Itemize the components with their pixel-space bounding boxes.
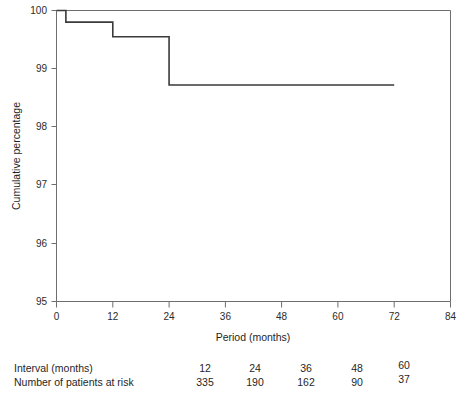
risk-table-at-risk-12: 335 [196, 376, 214, 388]
y-tick-label-98: 98 [36, 121, 48, 132]
y-tick-label-96: 96 [36, 238, 48, 249]
x-tick-label-60: 60 [332, 311, 344, 322]
x-tick-label-48: 48 [276, 311, 288, 322]
risk-table-at-risk-24: 190 [246, 376, 264, 388]
x-tick-label-24: 24 [164, 311, 176, 322]
x-tick-label-36: 36 [220, 311, 232, 322]
y-axis-title: Cumulative percentage [10, 102, 22, 210]
survival-chart-svg: 100 99 98 97 96 95 0 12 24 36 48 60 72 [0, 0, 470, 401]
risk-table-at-risk-36: 162 [297, 376, 315, 388]
x-ticks [57, 302, 451, 308]
x-tick-label-72: 72 [389, 311, 401, 322]
risk-table-interval-36: 36 [300, 362, 312, 374]
risk-table-interval-60: 60 [398, 359, 410, 371]
x-tick-label-0: 0 [54, 311, 60, 322]
y-ticks [52, 11, 57, 302]
x-tick-label-84: 84 [445, 311, 457, 322]
x-axis-title: Period (months) [216, 331, 291, 343]
y-tick-label-95: 95 [36, 296, 48, 307]
x-tick-label-12: 12 [107, 311, 119, 322]
risk-table-row-label-at-risk: Number of patients at risk [14, 376, 134, 388]
risk-table: Interval (months) Number of patients at … [14, 359, 410, 388]
cumulative-percentage-step-line [57, 11, 395, 86]
risk-table-interval-12: 12 [199, 362, 211, 374]
x-tick-labels: 0 12 24 36 48 60 72 84 [54, 311, 457, 322]
risk-table-interval-24: 24 [249, 362, 261, 374]
risk-table-row-label-interval: Interval (months) [14, 362, 93, 374]
risk-table-interval-48: 48 [351, 362, 363, 374]
risk-table-at-risk-48: 90 [351, 376, 363, 388]
y-tick-label-99: 99 [36, 63, 48, 74]
y-tick-label-97: 97 [36, 179, 48, 190]
y-tick-label-100: 100 [30, 5, 47, 16]
plot-axes [57, 11, 451, 302]
risk-table-at-risk-60: 37 [398, 373, 410, 385]
chart-figure: 100 99 98 97 96 95 0 12 24 36 48 60 72 [0, 0, 470, 401]
y-tick-labels: 100 99 98 97 96 95 [30, 5, 47, 307]
